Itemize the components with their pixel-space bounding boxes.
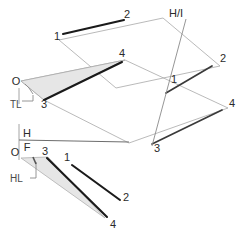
label-point-3-upper: 3 [41,98,47,110]
label-point-1-lower: 1 [64,151,70,163]
label-point-2-lower: 2 [123,191,129,203]
label-point-3-lower: 3 [42,145,48,157]
label-point-4-upper: 4 [119,47,125,59]
descriptive-geometry-drawing: 1 2 4 O 3 TL 1 2 4 3 H/I H F O 3 1 2 4 H… [0,0,247,246]
fold-line-h-f [19,140,129,142]
shaded-triangle-o-4-3-upper [21,60,125,100]
label-point-2-right: 2 [220,52,226,64]
construction-line-12-upper-left [59,18,163,40]
label-horizontal-line: HL [10,173,23,184]
construction-line-34-lower-mid [44,100,129,143]
construction-line-12-upper-right [163,18,220,66]
label-fold-f: F [24,141,31,153]
figure-canvas: 1 2 4 O 3 TL 1 2 4 3 H/I H F O 3 1 2 4 H… [0,0,247,246]
line-3-4-lower-view [47,158,107,217]
line-3-4-auxiliary-view [152,110,222,144]
construction-line-34-lower-right [129,108,228,143]
true-length-leader-bracket [22,95,33,101]
label-true-length: TL [10,99,22,110]
label-point-4-lower: 4 [110,218,116,230]
label-point-1-right: 1 [171,73,177,85]
label-fold-h: H [23,127,31,139]
lower-view-group [21,157,120,218]
shaded-triangle-o-3-4-lower [21,157,105,218]
label-origin-upper: O [12,75,21,87]
label-point-1-upper-left: 1 [54,30,60,42]
upper-view-group [21,18,228,144]
fold-line-h-i [152,19,186,146]
line-1-2-upper-view [63,20,124,34]
label-origin-lower: O [11,146,20,158]
label-fold-line-h-i: H/I [169,7,183,19]
label-point-3-right: 3 [154,142,160,154]
label-point-4-right: 4 [229,97,235,109]
label-point-2-upper-top: 2 [124,8,130,20]
upper-projection-band-2 [21,60,228,143]
